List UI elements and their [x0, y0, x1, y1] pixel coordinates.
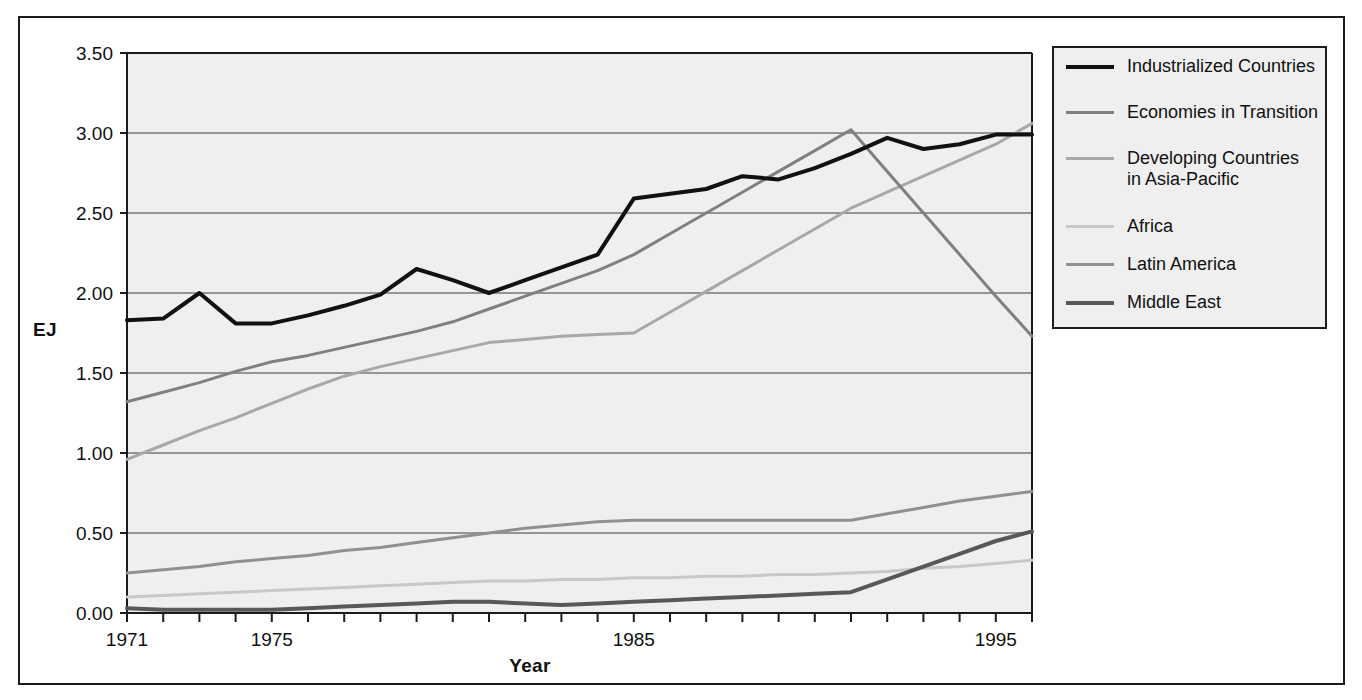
legend-item: Latin America	[1066, 254, 1236, 275]
legend-swatch-line-icon	[1066, 225, 1114, 228]
y-tick-label: 1.00	[76, 443, 113, 464]
legend-swatch-line-icon	[1066, 65, 1114, 69]
legend-item-label: Economies in Transition	[1127, 102, 1318, 123]
legend-item: Economies in Transition	[1066, 102, 1318, 123]
y-tick-label: 2.50	[76, 203, 113, 224]
y-axis-title: EJ	[33, 319, 57, 341]
legend-swatch-line-icon	[1066, 263, 1114, 266]
y-tick-label: 0.00	[76, 603, 113, 624]
x-tick-label: 1975	[251, 629, 293, 650]
x-tick-label: 1995	[975, 629, 1017, 650]
legend-swatch-line-icon	[1066, 157, 1114, 160]
x-tick-label: 1971	[106, 629, 148, 650]
legend-swatch-line-icon	[1066, 111, 1114, 114]
legend-item: Developing Countries in Asia-Pacific	[1066, 148, 1299, 190]
y-tick-label: 3.00	[76, 123, 113, 144]
y-tick-label: 3.50	[76, 43, 113, 64]
x-axis-title: Year	[0, 655, 1060, 677]
legend-item: Industrialized Countries	[1066, 56, 1315, 77]
legend-item: Middle East	[1066, 292, 1221, 313]
legend: Industrialized CountriesEconomies in Tra…	[1052, 46, 1327, 329]
legend-swatch-line-icon	[1066, 301, 1114, 305]
y-tick-label: 2.00	[76, 283, 113, 304]
y-tick-label: 1.50	[76, 363, 113, 384]
legend-item-label: Developing Countries in Asia-Pacific	[1127, 148, 1299, 190]
x-tick-label: 1985	[613, 629, 655, 650]
legend-item-label: Latin America	[1127, 254, 1236, 275]
legend-item-label: Industrialized Countries	[1127, 56, 1315, 77]
y-tick-label: 0.50	[76, 523, 113, 544]
legend-item-label: Middle East	[1127, 292, 1221, 313]
legend-item-label: Africa	[1127, 216, 1173, 237]
legend-item: Africa	[1066, 216, 1173, 237]
plot-area	[127, 53, 1032, 613]
figure-root: 0.000.501.001.502.002.503.003.5019711975…	[0, 0, 1362, 700]
